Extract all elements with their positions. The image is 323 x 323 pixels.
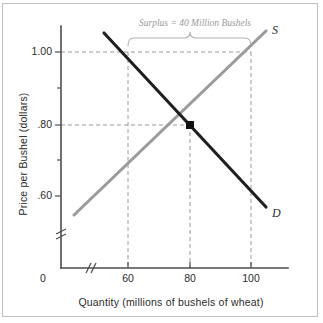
axis-lines <box>61 26 288 268</box>
x-tick-label-100: 100 <box>233 272 269 284</box>
x-tick-label-60: 60 <box>110 272 146 284</box>
x-tick-label-80: 80 <box>172 272 208 284</box>
x-axis-ticks <box>128 262 251 268</box>
demand-curve-label: D <box>272 206 281 221</box>
x-axis-title: Quantity (millions of bushels of wheat) <box>56 296 286 308</box>
y-tick-label-.80: .80 <box>8 118 52 130</box>
surplus-annotation-label: Surplus = 40 Million Bushels <box>110 18 280 28</box>
origin-label: 0 <box>40 272 46 284</box>
y-tick-label-1.00: 1.00 <box>8 45 52 57</box>
y-tick-label-.60: .60 <box>8 189 52 201</box>
supply-curve <box>74 31 266 215</box>
chart-figure: Price per Bushel (dollars) Quantity (mil… <box>0 0 323 323</box>
y-axis-title: Price per Bushel (dollars) <box>17 79 29 229</box>
y-axis-ticks <box>55 52 61 196</box>
equilibrium-point-marker <box>186 121 194 129</box>
surplus-bracket <box>128 32 251 46</box>
